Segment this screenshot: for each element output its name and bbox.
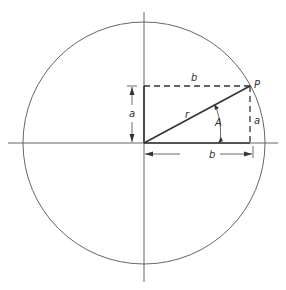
label-b-bottom: b (209, 149, 215, 160)
dim-a-arrow-top (130, 87, 135, 95)
label-b-top: b (191, 72, 197, 83)
circle-diagram: b P r A a a b (0, 0, 286, 290)
dim-a-arrow-bottom (130, 134, 135, 142)
label-p: P (254, 79, 261, 90)
label-a-left: a (129, 108, 135, 119)
label-angle-a: A (214, 117, 222, 128)
dim-b-arrow-right (244, 152, 252, 157)
label-a-right: a (254, 115, 260, 126)
dim-b-arrow-left (145, 152, 153, 157)
radius-line (144, 86, 250, 143)
